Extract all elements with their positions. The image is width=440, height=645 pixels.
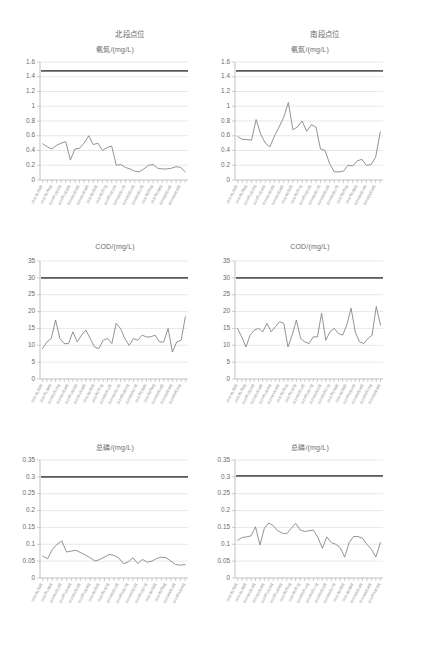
y-tick-label: 0.3 [26,473,35,480]
column-header-south: 南段点位 [250,28,400,39]
y-tick-label: 0.8 [221,117,230,124]
y-tick-label: 1 [226,102,230,109]
y-tick-label: 0.2 [26,161,35,168]
y-tick-label: 1.4 [221,72,230,79]
plot-area: 00.20.40.60.811.21.41.62020年1月3日2020年1月8… [205,56,415,222]
chart-panel-north-ammonia: 氨氮/(mg/L) 00.20.40.60.811.21.41.62020年1月… [10,44,220,224]
y-tick-label: 30 [28,274,36,281]
y-tick-label: 0.2 [221,506,230,513]
chart-panel-north-tp: 总磷/(mg/L) 00.050.10.150.20.250.30.352020… [10,442,220,622]
y-tick-label: 0 [31,375,35,382]
y-tick-label: 25 [28,290,36,297]
chart-svg: 00.20.40.60.811.21.41.62020年1月3日2020年1月8… [10,56,220,222]
y-tick-label: 15 [28,324,36,331]
y-tick-label: 35 [28,257,36,264]
y-tick-label: 1.6 [221,58,230,65]
y-tick-label: 0.6 [26,131,35,138]
y-tick-label: 35 [223,257,231,264]
chart-panel-south-ammonia: 氨氮/(mg/L) 00.20.40.60.811.21.41.62020年1月… [205,44,415,224]
plot-area: 051015202530352020年1月3日2020年1月8日2020年1月1… [10,255,220,421]
y-tick-label: 0.1 [26,540,35,547]
chart-title: COD/(mg/L) [10,243,220,250]
y-tick-label: 0.25 [23,489,36,496]
y-tick-label: 20 [223,307,231,314]
y-tick-label: 1.6 [26,58,35,65]
y-tick-label: 0.05 [23,557,36,564]
data-series-line [238,307,381,347]
y-tick-label: 0.4 [26,146,35,153]
chart-svg: 051015202530352020年1月3日2020年1月8日2020年1月1… [10,255,220,421]
y-tick-label: 0.6 [221,131,230,138]
y-tick-label: 10 [28,341,36,348]
plot-area: 00.20.40.60.811.21.41.62020年1月3日2020年1月8… [10,56,220,222]
y-tick-label: 20 [28,307,36,314]
chart-panel-north-cod: COD/(mg/L) 051015202530352020年1月3日2020年1… [10,243,220,423]
y-tick-label: 10 [223,341,231,348]
chart-title: COD/(mg/L) [205,243,415,250]
plot-area: 051015202530352020年1月3日2020年1月8日2020年1月1… [205,255,415,421]
y-tick-label: 0.15 [23,523,36,530]
data-series-line [238,523,381,557]
y-tick-label: 0.4 [221,146,230,153]
data-series-line [43,136,185,172]
y-tick-label: 25 [223,290,231,297]
chart-title: 氨氮/(mg/L) [10,44,220,54]
chart-title: 总磷/(mg/L) [10,442,220,452]
y-tick-label: 15 [223,324,231,331]
y-tick-label: 0.25 [218,489,231,496]
y-tick-label: 1.4 [26,72,35,79]
y-tick-label: 0.3 [221,473,230,480]
y-tick-label: 0.35 [218,456,231,463]
y-tick-label: 0.8 [26,117,35,124]
chart-panel-south-tp: 总磷/(mg/L) 00.050.10.150.20.250.30.352020… [205,442,415,622]
y-tick-label: 1.2 [221,87,230,94]
y-tick-label: 1.2 [26,87,35,94]
chart-panel-south-cod: COD/(mg/L) 051015202530352020年1月3日2020年1… [205,243,415,423]
chart-svg: 00.050.10.150.20.250.30.352020年1月3日2020年… [205,454,415,620]
y-tick-label: 30 [223,274,231,281]
chart-title: 总磷/(mg/L) [205,442,415,452]
y-tick-label: 1 [31,102,35,109]
plot-area: 00.050.10.150.20.250.30.352020年1月3日2020年… [205,454,415,620]
y-tick-label: 0 [226,574,230,581]
y-tick-label: 0.35 [23,456,36,463]
y-tick-label: 0.2 [26,506,35,513]
data-series-line [238,103,380,172]
chart-title: 氨氮/(mg/L) [205,44,415,54]
y-tick-label: 0 [31,574,35,581]
y-tick-label: 5 [226,358,230,365]
y-tick-label: 0 [226,176,230,183]
data-series-line [43,317,186,352]
y-tick-label: 0.15 [218,523,231,530]
chart-svg: 00.050.10.150.20.250.30.352020年1月3日2020年… [10,454,220,620]
y-tick-label: 0 [31,176,35,183]
y-tick-label: 5 [31,358,35,365]
column-header-north: 北段点位 [55,28,205,39]
chart-svg: 00.20.40.60.811.21.41.62020年1月3日2020年1月8… [205,56,415,222]
y-tick-label: 0.1 [221,540,230,547]
chart-svg: 051015202530352020年1月3日2020年1月8日2020年1月1… [205,255,415,421]
y-tick-label: 0.2 [221,161,230,168]
y-tick-label: 0 [226,375,230,382]
plot-area: 00.050.10.150.20.250.30.352020年1月3日2020年… [10,454,220,620]
chart-sheet: 北段点位 南段点位 氨氮/(mg/L) 00.20.40.60.811.21.4… [0,0,440,645]
y-tick-label: 0.05 [218,557,231,564]
